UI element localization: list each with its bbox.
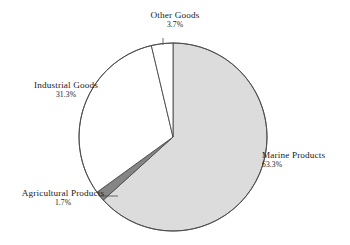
pie-chart: Other Goods 3.7% Industrial Goods 31.3% … — [0, 0, 350, 245]
pie-label-industrial-goods-percent: 31.3% — [12, 91, 120, 100]
pie-label-agricultural-products: Agricultural Products 1.7% — [8, 188, 118, 207]
pie-label-industrial-goods-name: Industrial Goods — [12, 80, 120, 90]
pie-label-agricultural-products-percent: 1.7% — [8, 199, 118, 208]
pie-label-agricultural-products-name: Agricultural Products — [8, 188, 118, 198]
pie-label-marine-products-name: Marine Products — [262, 150, 348, 160]
pie-chart-graphic — [0, 0, 350, 245]
pie-label-other-goods: Other Goods 3.7% — [120, 10, 230, 29]
pie-label-other-goods-percent: 3.7% — [120, 21, 230, 30]
pie-label-marine-products-percent: 63.3% — [262, 161, 348, 170]
pie-label-industrial-goods: Industrial Goods 31.3% — [12, 80, 120, 99]
pie-label-marine-products: Marine Products 63.3% — [262, 150, 348, 169]
pie-label-other-goods-name: Other Goods — [120, 10, 230, 20]
